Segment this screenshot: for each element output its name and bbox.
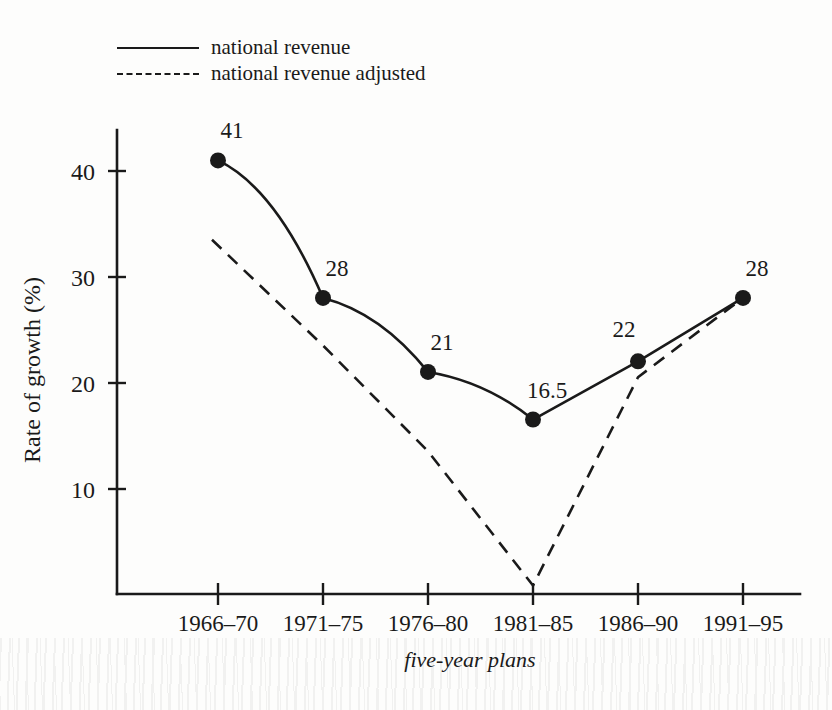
data-point-label: 28 bbox=[326, 256, 349, 281]
y-tick-label-20: 20 bbox=[71, 371, 95, 397]
data-point-marker bbox=[525, 412, 541, 428]
chart-figure: national revenue national revenue adjust… bbox=[0, 0, 832, 710]
y-tick-label-40: 40 bbox=[71, 159, 95, 185]
data-point-label: 21 bbox=[431, 330, 454, 355]
x-axis-title: five-year plans bbox=[404, 647, 535, 672]
series-line-national-revenue bbox=[218, 160, 743, 419]
data-point-marker bbox=[315, 290, 331, 306]
y-tick-label-30: 30 bbox=[71, 265, 95, 291]
y-axis-title: Rate of growth (%) bbox=[19, 277, 45, 463]
series-point-labels-national-revenue: 41282116.52228 bbox=[221, 118, 769, 402]
chart-plot-area: 40 30 20 10 Rate of growth (%) 1966–70 1… bbox=[0, 0, 832, 710]
series-line-national-revenue-adjusted bbox=[212, 240, 743, 586]
x-tick-label-1976-80: 1976–80 bbox=[388, 611, 469, 636]
x-tick-label-1991-95: 1991–95 bbox=[703, 611, 784, 636]
data-point-label: 16.5 bbox=[527, 378, 567, 403]
data-point-marker bbox=[210, 152, 226, 168]
y-tick-label-10: 10 bbox=[71, 477, 95, 503]
x-tick-label-1971-75: 1971–75 bbox=[283, 611, 364, 636]
x-tick-label-1966-70: 1966–70 bbox=[178, 611, 259, 636]
data-point-marker bbox=[735, 290, 751, 306]
data-point-marker bbox=[630, 353, 646, 369]
data-point-label: 28 bbox=[746, 256, 769, 281]
x-tick-label-1986-90: 1986–90 bbox=[598, 611, 679, 636]
data-point-marker bbox=[420, 364, 436, 380]
x-tick-label-1981-85: 1981–85 bbox=[493, 611, 574, 636]
data-point-label: 22 bbox=[613, 317, 636, 342]
data-point-label: 41 bbox=[221, 118, 244, 143]
